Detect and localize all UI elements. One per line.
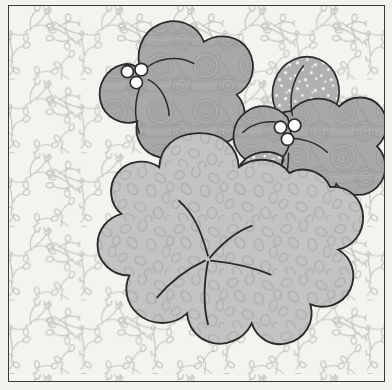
bead-icon <box>135 63 148 76</box>
bead-icon <box>130 76 142 88</box>
bead-icon <box>121 66 133 78</box>
block-frame <box>8 5 385 382</box>
quilt-block-illustration <box>0 0 392 390</box>
bead-icon <box>274 121 286 133</box>
quilt-artwork <box>9 6 384 381</box>
bead-icon <box>281 133 293 145</box>
bead-icon <box>288 119 301 132</box>
